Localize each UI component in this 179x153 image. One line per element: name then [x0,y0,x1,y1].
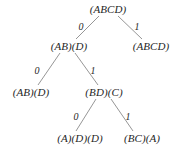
tree-node-n-0: (AB)(D) [51,40,88,52]
edge-label-edge-01-011: 1 [126,111,131,122]
edge-label-edge-01-010: 0 [74,111,79,122]
edge-label-edge-0-01: 1 [91,65,96,76]
tree-node-n-011: (BC)(A) [124,132,160,144]
tree-node-n-00: (AB)(D) [13,86,50,98]
edge-label-edge-0-00: 0 [35,65,40,76]
tree-edge-layer [0,0,179,153]
tree-node-n-1: (ABCD) [133,40,170,52]
decision-tree-figure: (ABCD)(AB)(D)(ABCD)(AB)(D)(BD)(C)(A)(D)(… [0,0,179,153]
tree-edge [76,99,96,131]
edge-label-edge-root-1: 1 [135,21,140,32]
tree-node-n-01: (BD)(C) [85,86,122,98]
tree-edge [38,53,60,85]
edge-label-edge-root-0: 0 [79,21,84,32]
tree-node-root: (ABCD) [90,3,127,15]
tree-node-n-010: (A)(D)(D) [57,132,103,144]
